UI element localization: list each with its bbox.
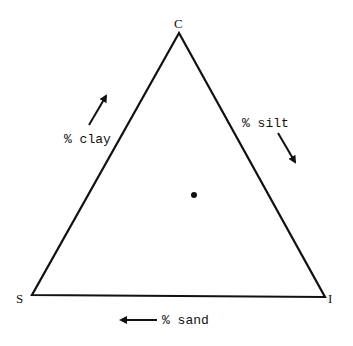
diagram-canvas <box>0 0 353 346</box>
sample-point <box>191 192 197 198</box>
vertex-label-c: C <box>174 17 183 30</box>
axis-label-silt: % silt <box>242 117 289 130</box>
silt-arrow-icon <box>278 133 295 162</box>
axis-label-clay: % clay <box>64 133 111 146</box>
vertex-label-i: I <box>328 292 332 305</box>
vertex-label-s: S <box>16 292 23 305</box>
axis-label-sand: % sand <box>162 314 209 327</box>
clay-arrow-icon <box>89 96 106 125</box>
ternary-diagram: C S I % clay % silt % sand <box>0 0 353 346</box>
triangle-outline <box>32 33 325 297</box>
